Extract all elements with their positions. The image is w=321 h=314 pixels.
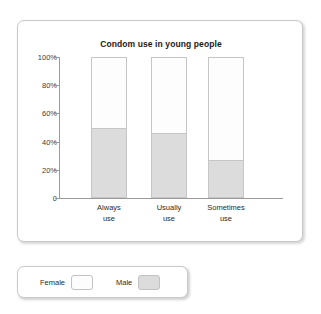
bar-group bbox=[151, 57, 187, 198]
bar-group bbox=[208, 57, 244, 198]
legend-entry-male[interactable]: Male bbox=[116, 275, 160, 290]
legend-label: Female bbox=[40, 278, 65, 287]
bar-group bbox=[91, 57, 127, 198]
legend-swatch bbox=[71, 275, 93, 290]
y-tick-mark bbox=[55, 198, 59, 199]
y-tick-label: 0 bbox=[31, 194, 57, 203]
y-tick-label: 80% bbox=[31, 81, 57, 90]
y-tick-label: 40% bbox=[31, 137, 57, 146]
legend-entry-female[interactable]: Female bbox=[40, 275, 93, 290]
x-axis-label: Sometimesuse bbox=[189, 202, 263, 224]
legend-label: Male bbox=[116, 278, 132, 287]
x-axis-line bbox=[59, 198, 283, 199]
y-tick-label: 60% bbox=[31, 109, 57, 118]
chart-panel: Condom use in young people 020%40%60%80%… bbox=[17, 20, 303, 242]
bar-segment-female bbox=[91, 57, 127, 198]
plot-card: Condom use in young people 020%40%60%80%… bbox=[31, 34, 291, 233]
y-tick-label: 20% bbox=[31, 165, 57, 174]
legend-swatch bbox=[138, 275, 160, 290]
x-axis-label-line: use bbox=[189, 213, 263, 224]
bar-segment-male bbox=[208, 160, 244, 198]
chart-title: Condom use in young people bbox=[31, 39, 291, 49]
plot-area bbox=[59, 57, 281, 198]
bar-segment-male bbox=[151, 133, 187, 198]
bar-segment-male bbox=[91, 128, 127, 199]
chart-legend: FemaleMale bbox=[17, 266, 188, 298]
y-tick-label: 100% bbox=[31, 53, 57, 62]
bar-segment-female bbox=[208, 57, 244, 198]
x-axis-label-line: Sometimes bbox=[189, 202, 263, 213]
bar-segment-female bbox=[151, 57, 187, 198]
